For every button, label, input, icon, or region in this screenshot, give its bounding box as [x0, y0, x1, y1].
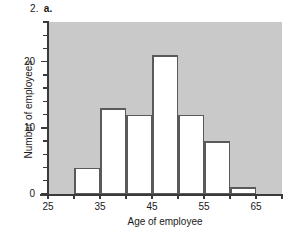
y-axis-title: Number of employees — [23, 30, 34, 190]
x-axis-tick — [125, 194, 126, 199]
histogram-bars — [48, 22, 282, 194]
y-axis-tick-minor — [43, 48, 48, 49]
histogram-figure: 2.a. 01020 2535455565 Number of employee… — [0, 0, 288, 243]
x-axis-tick-label: 45 — [137, 201, 167, 212]
x-axis-tick — [99, 194, 100, 199]
x-axis-tick — [229, 194, 230, 199]
y-axis-tick-minor — [43, 101, 48, 102]
y-axis-tick-label: 0 — [5, 189, 35, 199]
y-axis-tick-minor — [43, 87, 48, 88]
histogram-bar — [101, 109, 126, 194]
histogram-bar — [205, 142, 230, 194]
x-axis-title: Age of employee — [48, 216, 282, 228]
x-axis-tick — [177, 194, 178, 199]
x-axis-tick-label: 35 — [85, 201, 115, 212]
histogram-bar — [75, 168, 100, 194]
y-axis-tick-minor — [43, 74, 48, 75]
y-axis-tick-minor — [43, 167, 48, 168]
figure-label: 2.a. — [30, 3, 53, 15]
histogram-bar — [153, 56, 178, 194]
histogram-bar — [179, 115, 204, 194]
y-axis-tick-minor — [43, 154, 48, 155]
y-axis-tick-major — [41, 61, 48, 62]
y-axis-tick-minor — [43, 21, 48, 22]
x-axis-tick — [255, 194, 256, 199]
x-axis-tick — [151, 194, 152, 199]
y-axis-tick-major — [41, 127, 48, 128]
plot-area — [48, 22, 282, 194]
x-axis-tick-label: 55 — [189, 201, 219, 212]
x-axis-tick — [73, 194, 74, 199]
y-axis-tick-minor — [43, 140, 48, 141]
figure-part: a. — [44, 3, 53, 14]
x-axis-tick-label: 65 — [241, 201, 271, 212]
x-axis-tick-label: 25 — [33, 201, 63, 212]
y-axis-tick-minor — [43, 180, 48, 181]
x-axis-tick — [281, 194, 282, 199]
x-axis-tick — [47, 194, 48, 199]
x-axis-line — [40, 194, 283, 196]
histogram-bar — [127, 115, 152, 194]
x-axis-tick — [203, 194, 204, 199]
figure-number: 2. — [30, 3, 39, 14]
y-axis-tick-minor — [43, 114, 48, 115]
y-axis-tick-minor — [43, 35, 48, 36]
